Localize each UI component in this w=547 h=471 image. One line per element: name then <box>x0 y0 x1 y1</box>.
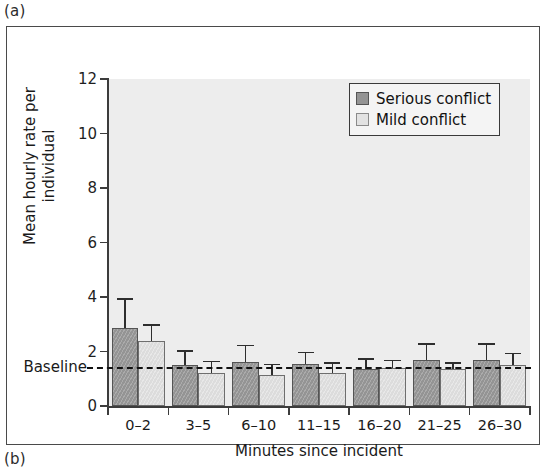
x-tick-0 <box>107 407 109 415</box>
bar-mild-0–2 <box>138 341 165 406</box>
y-tick-10 <box>100 133 108 135</box>
y-axis-title: Mean hourly rate per individual <box>21 71 59 261</box>
panel-b-letter: (b) <box>4 450 26 468</box>
bar-mild-11–15 <box>319 373 346 406</box>
error-stem-serious-0–2 <box>124 298 125 328</box>
bar-mild-26–30 <box>500 365 527 406</box>
baseline-label: Baseline <box>13 358 87 376</box>
x-tick-1 <box>168 407 170 415</box>
y-tick-label-0: 0 <box>59 397 97 415</box>
y-tick-8 <box>100 187 108 189</box>
error-stem-serious-11–15 <box>305 352 306 364</box>
error-stem-mild-26–30 <box>512 353 513 365</box>
legend-swatch-mild-icon <box>356 113 369 126</box>
x-tick-4 <box>348 407 350 415</box>
x-tick-7 <box>529 407 531 415</box>
x-tick-5 <box>409 407 411 415</box>
x-category-label-26–30: 26–30 <box>460 417 540 433</box>
y-tick-2 <box>100 351 108 353</box>
bar-mild-16–20 <box>379 368 406 406</box>
baseline-reference-line <box>87 367 531 369</box>
error-cap-serious-11–15 <box>298 352 314 353</box>
bar-serious-16–20 <box>353 369 380 406</box>
x-axis-title: Minutes since incident <box>108 442 530 460</box>
x-tick-3 <box>288 407 290 415</box>
error-cap-serious-21–25 <box>418 343 434 344</box>
error-stem-serious-6–10 <box>245 345 246 363</box>
error-cap-mild-6–10 <box>264 364 280 365</box>
legend-label-serious: Serious conflict <box>376 90 491 108</box>
y-tick-4 <box>100 296 108 298</box>
error-cap-serious-16–20 <box>358 358 374 359</box>
error-cap-mild-21–25 <box>445 362 461 363</box>
figure-panel-a: 024681012 Baseline 0–23–56–1011–1516–202… <box>6 26 540 445</box>
bar-serious-11–15 <box>292 364 319 406</box>
error-cap-mild-11–15 <box>324 362 340 363</box>
error-cap-mild-0–2 <box>143 324 159 325</box>
legend-label-mild: Mild conflict <box>376 111 466 129</box>
bar-mild-3–5 <box>198 373 225 406</box>
legend-item-serious: Serious conflict <box>356 88 491 109</box>
error-cap-serious-6–10 <box>237 345 253 346</box>
bar-serious-3–5 <box>172 365 199 406</box>
error-cap-serious-0–2 <box>117 298 133 299</box>
panel-a-letter: (a) <box>4 2 26 20</box>
legend-item-mild: Mild conflict <box>356 109 491 130</box>
error-cap-mild-26–30 <box>505 353 521 354</box>
y-tick-label-10: 10 <box>59 125 97 143</box>
bar-mild-21–25 <box>440 369 467 406</box>
x-tick-6 <box>469 407 471 415</box>
error-cap-serious-3–5 <box>177 350 193 351</box>
legend-swatch-serious-icon <box>356 92 369 105</box>
y-tick-6 <box>100 242 108 244</box>
y-tick-label-6: 6 <box>59 234 97 252</box>
error-stem-mild-6–10 <box>271 364 272 375</box>
y-tick-label-8: 8 <box>59 179 97 197</box>
y-tick-12 <box>100 78 108 80</box>
error-stem-serious-3–5 <box>184 350 185 365</box>
bar-mild-6–10 <box>259 375 286 406</box>
error-stem-serious-26–30 <box>486 343 487 359</box>
x-tick-2 <box>228 407 230 415</box>
error-cap-mild-16–20 <box>384 360 400 361</box>
y-tick-label-4: 4 <box>59 288 97 306</box>
error-stem-mild-0–2 <box>151 324 152 340</box>
x-axis-line <box>107 406 531 408</box>
error-cap-serious-26–30 <box>478 343 494 344</box>
y-tick-label-12: 12 <box>59 70 97 88</box>
error-stem-serious-21–25 <box>426 343 427 359</box>
error-cap-mild-3–5 <box>203 361 219 362</box>
chart-legend: Serious conflict Mild conflict <box>349 83 500 136</box>
